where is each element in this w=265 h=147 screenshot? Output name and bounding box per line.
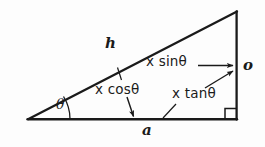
triangle-drawing <box>0 0 265 147</box>
label-x-sin-theta: x sinθ <box>146 55 187 69</box>
x-cos-arrow <box>127 97 134 117</box>
trigonometry-figure: x sinθ x cosθ x tanθ h a o θ <box>0 0 265 147</box>
label-x-cos-theta: x cosθ <box>95 83 139 97</box>
label-hypotenuse-h: h <box>105 36 116 51</box>
right-angle-marker <box>225 109 236 120</box>
x-tan-leader-line <box>163 104 176 118</box>
label-theta-angle: θ <box>56 97 64 111</box>
label-opposite-o: o <box>243 58 253 73</box>
label-x-tan-theta: x tanθ <box>172 87 216 101</box>
label-adjacent-a: a <box>142 123 152 138</box>
